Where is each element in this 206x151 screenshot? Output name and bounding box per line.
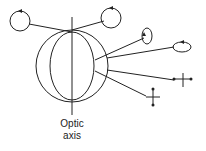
optic-axis-label-line1: Optic — [60, 118, 83, 129]
ray-to-right-circle — [72, 21, 104, 30]
elliptical-polarization-horizontal-icon — [173, 42, 191, 52]
arrow-tip-icon — [173, 78, 176, 81]
linear-polarization-horizontal-icon — [174, 73, 191, 87]
optic-axis-label-line2: axis — [63, 130, 81, 141]
arrow-head-icon — [18, 9, 22, 13]
ray-to-left-circle — [29, 24, 72, 32]
linear-polarization-vertical-icon — [146, 89, 160, 105]
arrow-head-icon — [109, 6, 113, 10]
ray-to-horizontal-cross — [107, 70, 174, 80]
arrow-tip-icon — [190, 78, 193, 81]
arrow-tip-icon — [152, 88, 155, 91]
ray-to-vertical-ellipse — [95, 38, 144, 60]
arrow-head-icon — [180, 40, 184, 44]
circular-polarization-left-icon — [10, 11, 30, 31]
polarization-diagram: Optic axis — [0, 0, 206, 151]
arrow-tip-icon — [152, 104, 155, 107]
circular-polarization-right-icon — [101, 8, 121, 28]
ray-to-horizontal-ellipse — [107, 47, 174, 58]
